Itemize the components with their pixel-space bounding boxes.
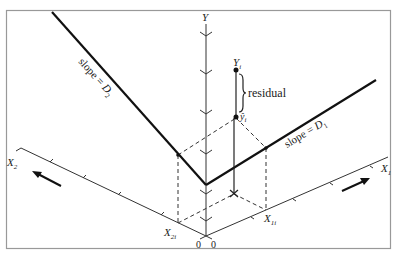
corner-point-x2 <box>176 153 180 157</box>
x1-direction-arrow-icon <box>342 178 370 191</box>
yhat-label: ŷi <box>239 111 246 124</box>
regression-lines <box>52 12 376 185</box>
residual-brace-icon <box>239 74 246 112</box>
yi-point <box>234 68 239 73</box>
x1-axis-label: X1 <box>380 162 391 177</box>
y-axis-label: Y <box>202 11 210 23</box>
x2i-label: X2i <box>163 226 176 241</box>
residual-label: residual <box>248 86 287 100</box>
origin-label-left: 0 <box>196 239 201 250</box>
projection-lines <box>178 118 266 223</box>
x2-axis-label: X2 <box>6 156 18 171</box>
corner-point-x1 <box>264 146 268 150</box>
x2-direction-arrow-icon <box>32 171 61 186</box>
residual-line <box>230 70 238 197</box>
origin-label-right: 0 <box>211 239 216 250</box>
y-axis <box>200 24 212 236</box>
regression-diagram: Y Yi residual ŷi slope = D2 slope = D1 X… <box>0 0 397 257</box>
yhat-point <box>234 115 239 120</box>
x1i-label: X1i <box>263 212 276 227</box>
